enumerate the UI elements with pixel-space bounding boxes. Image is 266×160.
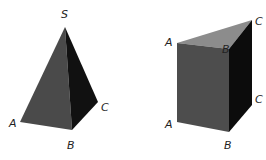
pyramid-face-sab xyxy=(20,27,72,130)
vertex-label-b-bottom: B xyxy=(224,139,232,152)
vertex-label-c: C xyxy=(101,101,109,114)
vertex-label-a-bottom: A xyxy=(164,118,173,131)
vertex-label-b: B xyxy=(67,139,75,152)
vertex-label-a-top: A xyxy=(164,36,173,49)
vertex-label-c-top: C xyxy=(255,15,263,28)
prism-front-face xyxy=(177,43,229,132)
pyramid: S A B C xyxy=(8,8,109,152)
vertex-label-s: S xyxy=(61,8,68,21)
vertex-label-b-top: B xyxy=(222,43,230,56)
vertex-label-c-bottom: C xyxy=(255,93,263,106)
geometry-figure: S A B C A B C A B C xyxy=(0,0,266,160)
triangular-prism: A B C A B C xyxy=(164,15,263,152)
vertex-label-a: A xyxy=(8,117,17,130)
